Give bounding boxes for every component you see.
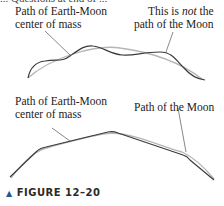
- label-moon-path: Path of the Moon: [134, 101, 214, 114]
- triangle-marker-icon: ▲: [6, 189, 13, 198]
- label-line: center of mass: [15, 108, 107, 121]
- leader-line-right: [178, 108, 186, 152]
- figure-number: FIGURE 12–20: [17, 187, 101, 198]
- label-line: Path of the Moon: [134, 101, 214, 114]
- figure-caption: ▲FIGURE 12–20: [6, 187, 100, 198]
- label-com-path-top: Path of Earth-Moon center of mass: [15, 5, 107, 31]
- label-com-path-bottom: Path of Earth-Moon center of mass: [15, 95, 107, 121]
- label-line: This is not the: [134, 5, 214, 18]
- top-panel: [28, 31, 205, 80]
- label-line: Path of Earth-Moon: [15, 5, 107, 18]
- leader-line-left: [52, 128, 70, 141]
- label-not-moon-path: This is not the path of the Moon: [134, 5, 214, 31]
- label-line: Path of Earth-Moon: [15, 95, 107, 108]
- leader-line-right: [166, 32, 173, 52]
- leader-line-left: [45, 31, 70, 55]
- label-line: path of the Moon: [134, 18, 214, 31]
- earth-moon-center-of-mass-path: [28, 47, 202, 79]
- label-line: center of mass: [15, 18, 107, 31]
- incorrect-moon-path-wavy: [28, 46, 205, 80]
